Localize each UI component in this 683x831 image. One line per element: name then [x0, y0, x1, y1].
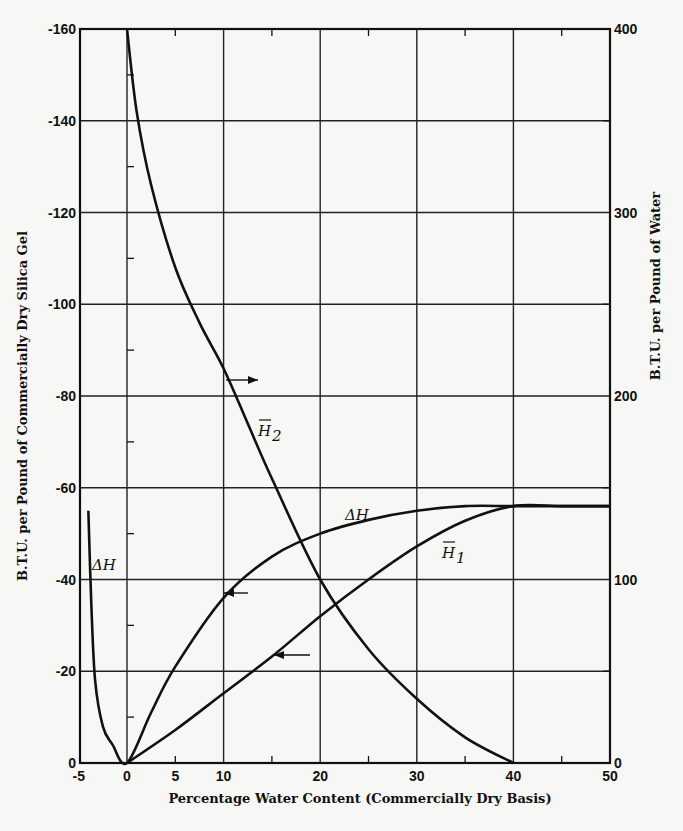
- delta-h-curve: [88, 506, 610, 764]
- y-tick-label: 0: [68, 755, 76, 771]
- chart-canvas: -50510203040500-20-40-60-80-100-120-140-…: [0, 0, 683, 831]
- h2-subscript: 2: [271, 427, 282, 445]
- arrow-right-axis-head: [248, 376, 258, 384]
- h1-subscript: 1: [456, 549, 466, 567]
- chart-figure: -50510203040500-20-40-60-80-100-120-140-…: [0, 0, 683, 831]
- delta-h-label-mid: ΔH: [344, 506, 370, 524]
- delta-h-label: ΔH: [91, 556, 117, 574]
- y-right-tick-label: 400: [614, 21, 638, 37]
- y-tick-label: -20: [56, 663, 76, 679]
- y-tick-label: -160: [48, 21, 76, 37]
- y-right-tick-label: 200: [614, 388, 638, 404]
- x-axis-label: Percentage Water Content (Commercially D…: [168, 791, 551, 806]
- x-tick-label: 0: [123, 768, 131, 784]
- x-tick-label: 30: [409, 768, 425, 784]
- x-tick-label: 10: [216, 768, 232, 784]
- x-tick-label: 40: [506, 768, 522, 784]
- y-axis-right-label: B.T.U. per Pound of Water: [648, 192, 663, 381]
- h1-label: H: [441, 544, 456, 562]
- y-tick-label: -80: [56, 388, 76, 404]
- x-tick-label: 20: [312, 768, 328, 784]
- h1-bar-curve: [127, 505, 610, 763]
- y-tick-label: -120: [48, 205, 76, 221]
- y-tick-label: -40: [56, 572, 76, 588]
- y-right-tick-label: 300: [614, 205, 638, 221]
- y-tick-label: -60: [56, 480, 76, 496]
- y-tick-label: -100: [48, 296, 76, 312]
- x-tick-label: 5: [171, 768, 179, 784]
- y-right-tick-label: 100: [614, 572, 638, 588]
- h2-label: H: [257, 422, 272, 440]
- y-right-tick-label: 0: [614, 755, 622, 771]
- y-axis-label: B.T.U. per Pound of Commercially Dry Sil…: [15, 231, 30, 581]
- y-tick-label: -140: [48, 113, 76, 129]
